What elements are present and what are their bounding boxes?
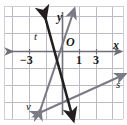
line-label-t: t xyxy=(34,31,37,42)
x-tick-label-3: 3 xyxy=(93,54,99,66)
axis-label-y: y xyxy=(57,11,62,23)
axis-label-x: x xyxy=(113,39,119,51)
x-tick-label-1: 1 xyxy=(76,54,82,66)
coordinate-graph-figure: t v s y x O −3 1 3 xyxy=(0,0,127,125)
line-label-v: v xyxy=(26,101,31,112)
x-tick-label-neg3: −3 xyxy=(20,54,33,66)
line-label-s: s xyxy=(116,79,120,90)
origin-label: O xyxy=(66,36,75,48)
